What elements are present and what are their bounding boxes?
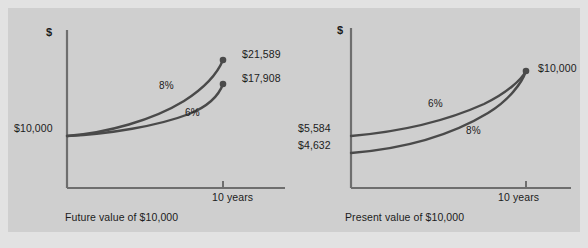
curve-label-6-percent: 6% [428, 98, 443, 110]
endpoint-label-converged: $10,000 [538, 62, 577, 74]
endpoint-label-8-percent: $21,589 [242, 48, 281, 60]
x-axis-tick-label: 10 years [212, 191, 253, 203]
curve-8-percent [67, 60, 223, 136]
curve-8-percent [351, 71, 526, 153]
chart-caption: Future value of $10,000 [65, 211, 178, 223]
start-value-label: $10,000 [14, 122, 53, 134]
curve-label-8-percent: 8% [159, 80, 174, 92]
curve-label-6-percent: 6% [185, 107, 200, 119]
chart-present-value: $ $10,000 $5,584 $4,632 6% 8% 10 years P… [294, 8, 580, 232]
endpoint-label-6-percent: $17,908 [242, 72, 281, 84]
chart-future-value: $ $10,000 $21,589 $17,908 8% 6% 10 years… [8, 8, 294, 232]
figure-panel: $ $10,000 $21,589 $17,908 8% 6% 10 years… [8, 8, 580, 232]
chart-caption: Present value of $10,000 [345, 211, 464, 223]
y-axis-label: $ [337, 24, 343, 36]
curve-label-8-percent: 8% [466, 125, 481, 137]
endpoint-marker-6-percent [220, 81, 227, 88]
start-value-label-6-percent: $5,584 [298, 122, 331, 134]
start-value-label-8-percent: $4,632 [298, 139, 331, 151]
y-axis-label: $ [46, 26, 52, 38]
endpoint-marker-8-percent [220, 57, 227, 64]
x-axis-tick-label: 10 years [498, 191, 539, 203]
endpoint-marker-converged [523, 68, 530, 75]
